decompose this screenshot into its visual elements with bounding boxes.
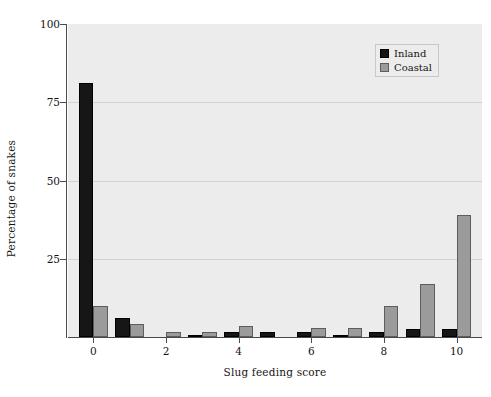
- x-axis-tick-mark: [311, 338, 312, 343]
- x-axis-tick-mark: [457, 338, 458, 343]
- x-axis-tick-label: 4: [219, 345, 259, 357]
- y-axis-tick-label: 75: [30, 96, 60, 108]
- legend-swatch-coastal-icon: [380, 63, 389, 72]
- x-axis-tick-mark: [166, 338, 167, 343]
- x-axis-title: Slug feeding score: [68, 366, 482, 378]
- x-axis-tick-label: 6: [291, 345, 331, 357]
- y-axis-tick-mark: [60, 259, 67, 260]
- x-axis-line: [68, 337, 482, 338]
- legend-label: Inland: [394, 48, 426, 60]
- bar-inland-1: [115, 318, 130, 337]
- x-axis-tick-label: 2: [146, 345, 186, 357]
- bar-coastal-9: [420, 284, 435, 337]
- bar-coastal-4: [239, 326, 254, 337]
- legend: InlandCoastal: [375, 44, 439, 77]
- x-axis-tick-label: 8: [364, 345, 404, 357]
- bar-coastal-8: [384, 306, 399, 337]
- x-axis-tick-label: 0: [73, 345, 113, 357]
- legend-swatch-inland-icon: [380, 49, 389, 58]
- y-axis-tick-mark: [60, 24, 67, 25]
- y-axis-title: Percentage of snakes: [0, 0, 22, 397]
- bar-inland-0: [79, 83, 94, 337]
- legend-entry-coastal: Coastal: [380, 62, 432, 74]
- bar-inland-10: [442, 329, 457, 337]
- bar-inland-9: [406, 329, 421, 337]
- bar-coastal-0: [93, 306, 108, 337]
- y-axis-tick-mark: [60, 181, 67, 182]
- bar-coastal-6: [311, 328, 326, 337]
- x-axis-tick-label: 10: [437, 345, 477, 357]
- x-axis-tick-mark: [384, 338, 385, 343]
- bar-coastal-7: [348, 328, 363, 337]
- legend-entry-inland: Inland: [380, 48, 432, 60]
- y-axis-tick-label: 25: [30, 253, 60, 265]
- y-axis-tick-mark: [60, 102, 67, 103]
- y-axis-tick-label: 100: [30, 18, 60, 30]
- y-axis-tick-labels: 255075100: [28, 0, 60, 397]
- bar-chart: Percentage of snakes 255075100 0246810 S…: [0, 0, 491, 397]
- y-axis-tick-label: 50: [30, 175, 60, 187]
- bar-coastal-10: [457, 215, 472, 337]
- x-axis-tick-mark: [93, 338, 94, 343]
- bar-coastal-1: [130, 324, 145, 337]
- legend-label: Coastal: [394, 62, 432, 74]
- x-axis-tick-mark: [239, 338, 240, 343]
